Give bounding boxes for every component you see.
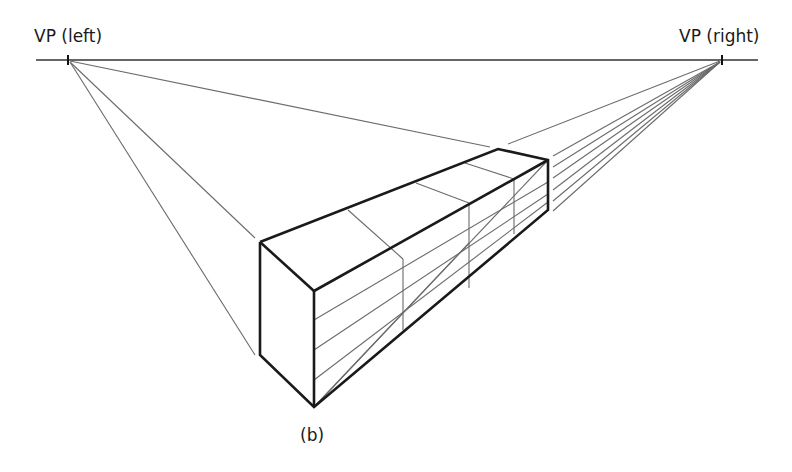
diagram-canvas [0, 0, 792, 472]
figure-caption: (b) [300, 425, 324, 445]
box-outline [260, 149, 548, 407]
vp-right-construction-lines [508, 61, 720, 211]
box-inner-lines [314, 160, 548, 407]
vp-left-label: VP (left) [34, 26, 102, 46]
vp-right-label: VP (right) [679, 26, 760, 46]
